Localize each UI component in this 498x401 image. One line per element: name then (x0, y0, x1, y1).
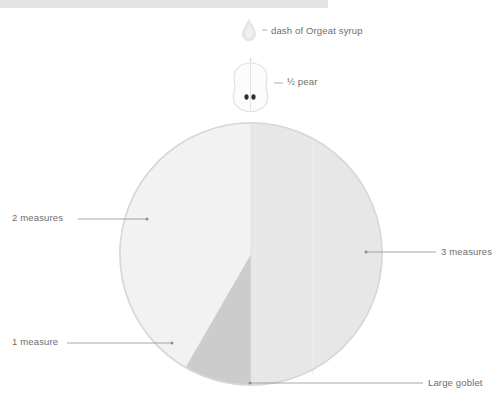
label-one-measure: 1 measure (12, 336, 58, 347)
label-large-goblet: Large goblet (428, 377, 483, 388)
droplet-icon (242, 19, 256, 41)
label-three-measures: 3 measures (441, 246, 492, 257)
cocktail-proportion-diagram (0, 0, 498, 401)
pie-slice-3-measures[interactable] (251, 123, 382, 385)
label-half-pear: ½ pear (287, 76, 317, 87)
pear-icon (233, 58, 267, 112)
label-two-measures: 2 measures (12, 212, 63, 223)
label-dash-orgeat-syrup: dash of Orgeat syrup (271, 25, 363, 36)
diagram-page: Ancestral (0, 0, 498, 401)
